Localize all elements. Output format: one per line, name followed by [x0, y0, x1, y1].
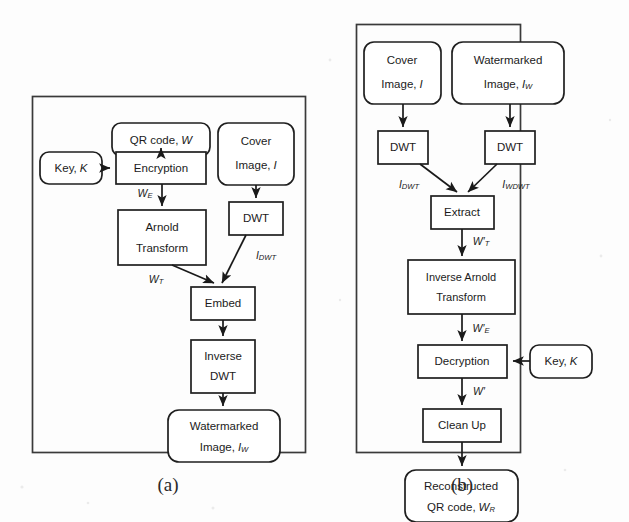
node-encryption[interactable]: Encryption — [116, 152, 206, 184]
node-clean-up[interactable]: Clean Up — [423, 409, 501, 442]
node-key-b[interactable]: Key,K — [530, 345, 592, 378]
scan-artifacts — [20, 59, 611, 510]
node-dwt-left-label: DWT — [390, 141, 416, 153]
node-dwt-left[interactable]: DWT — [378, 131, 428, 164]
node-dwt[interactable]: DWT — [229, 202, 283, 235]
node-watermarked-image[interactable]: Watermarked Image,IW — [168, 410, 280, 462]
node-cover-image-b-shape[interactable] — [364, 42, 441, 104]
node-inverse-arnold-transform[interactable]: Inverse Arnold Transform — [408, 260, 515, 314]
edge-label-w-t: WT — [149, 273, 165, 287]
node-inverse-dwt-label-line1: Inverse — [204, 350, 242, 362]
panel-b: Cover Image,I Watermarked Image,IW DWT — [357, 25, 593, 522]
node-watermarked-image-shape[interactable] — [168, 410, 280, 462]
node-inverse-arnold-transform-label-line2: Transform — [436, 291, 486, 303]
edge-dwt-to-embed — [222, 235, 246, 283]
node-cover-image-b-label-line1: Cover — [387, 54, 418, 66]
node-arnold-transform-label-line1: Arnold — [145, 221, 178, 233]
node-watermarked-image-b-shape[interactable] — [452, 42, 564, 104]
edge-label-i-dwt-b: IDWT — [399, 178, 421, 192]
node-inverse-dwt-label-line2: DWT — [210, 370, 236, 382]
node-inverse-dwt-shape[interactable] — [191, 340, 255, 393]
node-key-label: Key,K — [55, 162, 89, 174]
node-reconstructed-qr-label-line2: QR code,WR — [427, 501, 495, 514]
node-dwt-right-label: DWT — [497, 141, 523, 153]
node-cover-image-shape[interactable] — [218, 123, 294, 185]
node-key[interactable]: Key,K — [40, 152, 102, 184]
caption-a: (a) — [157, 474, 178, 496]
edge-dwt-left-to-extract — [420, 164, 457, 192]
node-inverse-dwt[interactable]: Inverse DWT — [191, 340, 255, 393]
node-key-b-label: Key,K — [545, 355, 579, 367]
node-arnold-transform-shape[interactable] — [118, 210, 206, 265]
node-qr-code-label: QR code,W — [130, 134, 194, 146]
node-dwt-right[interactable]: DWT — [485, 131, 535, 164]
node-arnold-transform-label-line2: Transform — [136, 242, 188, 254]
edge-label-w-prime-e: W′E — [473, 322, 491, 336]
edge-label-w-e: WE — [138, 187, 154, 201]
edge-label-i-wdwt: IWDWT — [502, 178, 531, 192]
edge-label-w-prime: W′ — [473, 385, 486, 397]
caption-b-visible: (b) — [451, 474, 473, 496]
node-cover-image-b[interactable]: Cover Image,I — [364, 42, 441, 104]
node-embed[interactable]: Embed — [191, 287, 255, 320]
node-clean-up-label: Clean Up — [438, 419, 486, 431]
node-inverse-arnold-transform-shape[interactable] — [408, 260, 515, 314]
node-embed-label: Embed — [205, 297, 241, 309]
node-decryption[interactable]: Decryption — [418, 345, 507, 378]
edge-arnold-to-embed — [172, 265, 214, 283]
node-encryption-label: Encryption — [134, 162, 188, 174]
node-cover-image[interactable]: Cover Image,I — [218, 123, 294, 185]
panel-a: QR code,W Cover Image,I Key,K — [33, 97, 306, 497]
node-arnold-transform[interactable]: Arnold Transform — [118, 210, 206, 265]
node-cover-image-label-line1: Cover — [241, 135, 272, 147]
node-watermarked-image-b-label-line1: Watermarked — [474, 54, 543, 66]
node-watermarked-image-label-line1: Watermarked — [190, 420, 259, 432]
edge-label-w-prime-t: W′T — [473, 235, 491, 249]
edge-label-i-dwt: IDWT — [256, 249, 278, 263]
node-inverse-arnold-transform-label-line1: Inverse Arnold — [426, 271, 496, 283]
node-extract[interactable]: Extract — [431, 196, 494, 229]
node-decryption-label: Decryption — [435, 355, 490, 367]
flowchart-canvas: QR code,W Cover Image,I Key,K — [0, 0, 629, 522]
figure-root: QR code,W Cover Image,I Key,K — [0, 0, 629, 522]
edge-dwt-right-to-extract — [468, 164, 497, 192]
node-extract-label: Extract — [444, 206, 481, 218]
node-watermarked-image-b[interactable]: Watermarked Image,IW — [452, 42, 564, 104]
node-dwt-label: DWT — [243, 212, 269, 224]
